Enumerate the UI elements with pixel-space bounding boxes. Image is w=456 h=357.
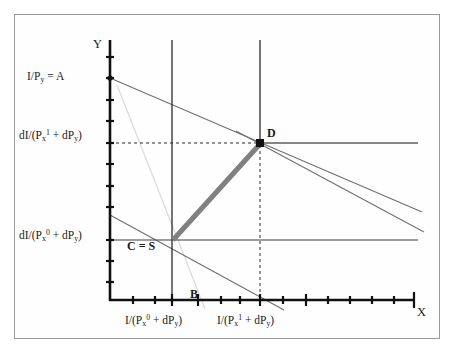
x-axis-label: X — [417, 306, 426, 319]
x-tick-label-i-px0: I/(Px0 + dPy) — [125, 314, 182, 328]
y-axis-label: Y — [93, 38, 102, 51]
substitution-income-path — [173, 144, 260, 240]
y-tick-label-di-px0: dI/(Px0 + dPy) — [19, 229, 82, 243]
faint-ray-line — [117, 85, 205, 309]
y-tick-label-a: I/Py = A — [27, 71, 64, 84]
y-tick-a-text: I/Py = A — [27, 70, 64, 82]
plot-svg — [0, 0, 456, 357]
figure-container: I/Py = A dI/(Px1 + dPy) dI/(Px0 + dPy) I… — [0, 0, 456, 357]
point-marker-d — [256, 139, 264, 147]
point-marker-a — [107, 75, 112, 80]
x-tick-i-px0-text: I/(Px0 + dPy) — [125, 314, 182, 326]
point-label-d: D — [267, 127, 276, 139]
y-tick-di-px0-text: dI/(Px0 + dPy) — [19, 229, 82, 241]
budget-line-a — [110, 78, 422, 212]
x-tick-i-px1-text: I/(Px1 + dPy) — [217, 314, 274, 326]
point-label-b: B — [190, 288, 198, 300]
y-tick-di-px1-text: dI/(Px1 + dPy) — [19, 129, 82, 141]
x-tick-label-i-px1: I/(Px1 + dPy) — [217, 314, 274, 328]
point-label-cs: C = S — [127, 240, 155, 252]
y-tick-label-di-px1: dI/(Px1 + dPy) — [19, 129, 82, 143]
budget-line-d — [236, 131, 424, 232]
